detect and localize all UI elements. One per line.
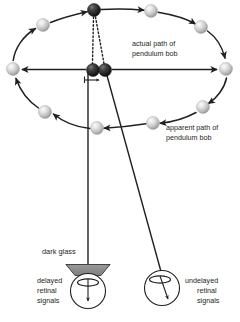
- apparent-arc-bottom-left-a: [54, 114, 91, 129]
- pendulum-dotted-strings: [93, 17, 105, 64]
- sight-lines: [88, 72, 168, 297]
- apparent-arc-lower-right-b: [104, 124, 146, 129]
- label-undelayed-line3: signals: [197, 296, 220, 305]
- apparent-arc-top-right-b: [158, 12, 196, 24]
- eye-delayed: [71, 274, 106, 309]
- bob-right-lower: [197, 101, 210, 114]
- bob-center-actual: [87, 64, 100, 77]
- label-undelayed-line1: undelayed: [185, 276, 218, 285]
- dotted-string-left: [93, 17, 94, 64]
- label-delayed-line1: delayed: [37, 276, 62, 285]
- label-actual-path-line1: actual path of: [132, 39, 175, 48]
- label-delayed-line2: retinal: [37, 286, 57, 295]
- apparent-arc-right-a: [208, 31, 226, 58]
- diagram-canvas: actual path of pendulum bob apparent pat…: [0, 0, 240, 322]
- label-actual-path-line2: pendulum bob: [132, 49, 178, 58]
- bob-bottom: [91, 122, 104, 135]
- label-apparent-path-line2: pendulum bob: [166, 133, 212, 142]
- sight-line-undelayed: [106, 72, 168, 297]
- dotted-string-right: [96, 17, 105, 64]
- offset-indicator: [85, 77, 100, 84]
- bob-upper-left: [37, 19, 50, 32]
- bob-lower-left: [39, 106, 52, 119]
- apparent-arc-bottom-left-b: [16, 79, 39, 109]
- label-dark-glass: dark glass: [42, 247, 76, 256]
- bob-lower-right: [147, 117, 160, 130]
- label-apparent-path-line1: apparent path of: [166, 123, 218, 132]
- apparent-arc-right-b: [209, 78, 227, 104]
- pulfrich-pendulum-diagram: actual path of pendulum bob apparent pat…: [0, 0, 240, 322]
- bob-top-right: [145, 5, 158, 18]
- label-delayed-line3: signals: [37, 296, 60, 305]
- apparent-arc-top-right-a: [101, 9, 144, 10]
- label-undelayed-line2: retinal: [197, 286, 217, 295]
- bob-top-actual: [88, 4, 101, 17]
- apparent-arc-upper-left-b: [51, 12, 88, 23]
- bob-left: [7, 63, 20, 76]
- bob-right: [220, 63, 233, 76]
- bob-center-apparent: [99, 64, 112, 77]
- eye-undelayed: [145, 271, 180, 306]
- bob-upper-right: [195, 21, 208, 34]
- apparent-arc-lower-right-a: [160, 113, 196, 124]
- apparent-arc-upper-left-a: [13, 29, 35, 61]
